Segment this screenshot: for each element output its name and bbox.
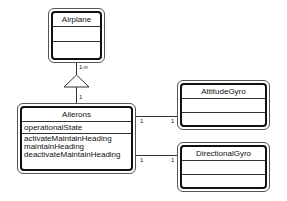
connector-ailerons-directionalgyro (136, 155, 177, 156)
class-operations (182, 113, 265, 125)
class-attitudegyro[interactable]: AttitudeGyro (177, 80, 270, 130)
class-attributes (182, 161, 265, 175)
class-name: AttitudeGyro (182, 85, 265, 99)
multiplicity-label: 1 (171, 118, 174, 125)
class-attributes: operationalState (22, 122, 131, 134)
class-ailerons-frame: Ailerons operationalState activateMainta… (20, 106, 133, 171)
connector-airplane-ailerons-bottom (76, 87, 77, 103)
multiplicity-label: 1 (79, 94, 82, 101)
class-name: Ailerons (22, 108, 131, 122)
class-operations: activateMaintainHeading maintainHeading … (22, 134, 131, 169)
class-name: DirectionalGyro (182, 147, 265, 161)
class-airplane[interactable]: Airplane (48, 8, 105, 63)
class-ailerons[interactable]: Ailerons operationalState activateMainta… (17, 103, 136, 174)
triangle-icon (63, 74, 90, 88)
class-airplane-frame: Airplane (51, 11, 102, 60)
attribute-item: operationalState (24, 123, 129, 132)
multiplicity-label: 1 (171, 157, 174, 164)
class-directionalgyro-frame: DirectionalGyro (180, 145, 267, 189)
class-directionalgyro[interactable]: DirectionalGyro (177, 142, 270, 192)
class-attributes (53, 27, 100, 42)
multiplicity-label: 1 (140, 118, 143, 125)
connector-ailerons-attitudegyro (136, 116, 177, 117)
operation-item: deactivateMaintainHeading (24, 151, 129, 159)
multiplicity-label: 1-n (79, 64, 88, 71)
multiplicity-label: 1 (140, 157, 143, 164)
class-attributes (182, 99, 265, 113)
class-name: Airplane (53, 13, 100, 27)
class-operations (53, 42, 100, 58)
class-attitudegyro-frame: AttitudeGyro (180, 83, 267, 127)
class-operations (182, 175, 265, 187)
